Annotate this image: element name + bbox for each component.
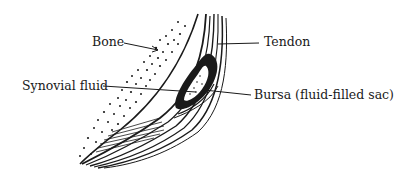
label-tendon: Tendon (264, 36, 310, 49)
bursa-diagram: Bone Tendon Synovial fluid Bursa (fluid-… (0, 0, 396, 174)
label-bursa: Bursa (fluid-filled sac) (254, 89, 394, 102)
tendon-leader (218, 43, 259, 44)
label-bone: Bone (92, 36, 124, 49)
bursa-leader (204, 90, 251, 95)
label-synovial-fluid: Synovial fluid (22, 80, 108, 93)
bursa-sac (174, 54, 218, 118)
